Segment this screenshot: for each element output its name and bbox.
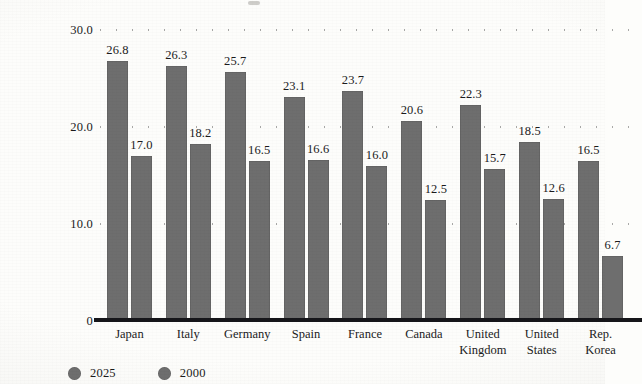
bar-value-label: 16.0 [366,148,388,163]
bar[interactable]: 15.7 [484,169,505,321]
bar-value-label: 18.2 [189,126,211,141]
bar-group: 25.716.5 [218,30,277,321]
bar-group: 22.315.7 [453,30,512,321]
bar-value-label: 25.7 [224,54,246,69]
category-label-line: United [525,327,559,343]
bar[interactable]: 20.6 [401,121,422,321]
bar-value-label: 26.8 [106,43,128,58]
category-label: Spain [292,327,320,343]
grouped-bar-chart: 010.020.030.0 26.817.026.318.225.716.523… [40,16,565,368]
category-label: Germany [224,327,271,343]
category-label-line: United [459,327,506,343]
bar[interactable]: 23.1 [284,97,305,321]
category-label: Rep.Korea [585,327,616,358]
legend-item[interactable]: 2000 [158,366,206,381]
legend-label: 2025 [90,366,116,381]
category-label: UnitedKingdom [459,327,506,358]
scan-artifact [248,1,260,5]
bar-value-label: 23.1 [283,79,305,94]
bar[interactable]: 22.3 [460,105,481,321]
bar-value-label: 18.5 [519,124,541,139]
category-label-line: Japan [115,327,143,343]
category-label-line: Germany [224,327,271,343]
bar-value-label: 16.5 [577,143,599,158]
x-axis-baseline [94,318,642,322]
category-label: UnitedStates [525,327,559,358]
bar-value-label: 17.0 [130,138,152,153]
bar-value-label: 16.5 [248,143,270,158]
bars-layer: 26.817.026.318.225.716.523.116.623.716.0… [100,30,630,321]
bar[interactable]: 12.5 [425,200,446,321]
category-label-line: Rep. [585,327,616,343]
category-label-line: Spain [292,327,320,343]
legend-swatch-2025-icon [68,367,81,380]
bar-value-label: 26.3 [165,48,187,63]
bar-group: 20.612.5 [394,30,453,321]
bar[interactable]: 6.7 [602,256,623,321]
legend-label: 2000 [180,366,206,381]
bar[interactable]: 23.7 [342,91,363,321]
category-label: Italy [177,327,200,343]
bar-value-label: 20.6 [401,103,423,118]
category-label-line: Korea [585,343,616,359]
category-label: Japan [115,327,143,343]
y-tick-label-0: 0 [87,314,93,329]
bar-value-label: 23.7 [342,73,364,88]
category-label-line: France [348,327,382,343]
bar-group: 26.318.2 [159,30,218,321]
y-tick-label-30.0: 30.0 [70,23,93,38]
y-tick-label-10.0: 10.0 [70,217,93,232]
bar[interactable]: 18.5 [519,142,540,321]
bar[interactable]: 16.6 [308,160,329,321]
bar-value-label: 16.6 [307,142,329,157]
bar-value-label: 12.5 [425,182,447,197]
plot-area: 010.020.030.0 26.817.026.318.225.716.523… [100,30,630,321]
bar-group: 16.56.7 [571,30,630,321]
category-label: Canada [405,327,442,343]
bar-value-label: 15.7 [484,151,506,166]
category-label-line: Italy [177,327,200,343]
bar[interactable]: 12.6 [543,199,564,321]
category-label-line: Canada [405,327,442,343]
bar-value-label: 6.7 [605,238,621,253]
bar[interactable]: 17.0 [131,156,152,321]
bar[interactable]: 26.3 [166,66,187,321]
bar[interactable]: 16.5 [249,161,270,321]
category-label-line: States [525,343,559,359]
bar-value-label: 12.6 [543,181,565,196]
bar-group: 23.716.0 [336,30,395,321]
bar[interactable]: 26.8 [107,61,128,321]
legend-item[interactable]: 2025 [68,366,116,381]
bar[interactable]: 16.5 [578,161,599,321]
bar[interactable]: 16.0 [366,166,387,321]
bar-group: 18.512.6 [512,30,571,321]
bar[interactable]: 25.7 [225,72,246,321]
bar-group: 23.116.6 [277,30,336,321]
chart-legend: 20252000 [68,366,206,381]
category-label-line: Kingdom [459,343,506,359]
bar-value-label: 22.3 [460,87,482,102]
bar[interactable]: 18.2 [190,144,211,321]
bar-group: 26.817.0 [100,30,159,321]
y-tick-label-20.0: 20.0 [70,120,93,135]
category-label: France [348,327,382,343]
legend-swatch-2000-icon [158,367,171,380]
